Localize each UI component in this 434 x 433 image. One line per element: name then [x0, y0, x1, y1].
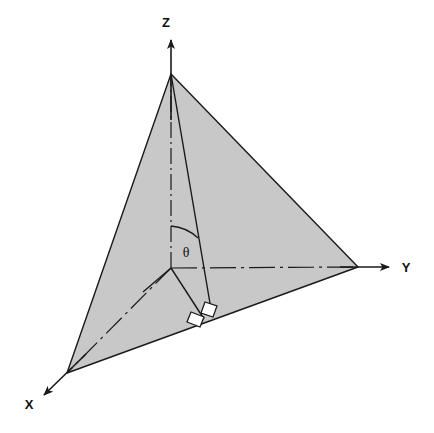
x-axis-label: X [25, 397, 34, 412]
geometry-figure: Z Y X θ [0, 0, 434, 433]
x-axis-arrow [44, 354, 86, 395]
z-axis-label: Z [162, 15, 170, 30]
diagram-canvas: Z Y X θ [0, 0, 434, 433]
y-axis-label: Y [402, 260, 411, 275]
theta-angle-label: θ [183, 245, 190, 260]
